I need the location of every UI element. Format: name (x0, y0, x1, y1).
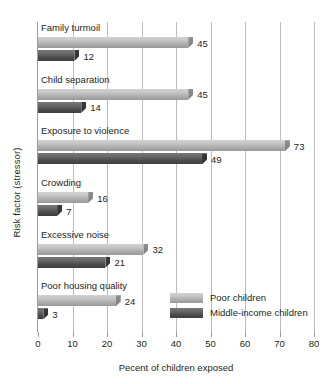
x-axis-tick-label: 70 (274, 338, 285, 349)
x-axis-tick-label: 30 (136, 338, 147, 349)
category-label: Family turmoil (41, 22, 100, 34)
bar-group: Family turmoil4512 (38, 22, 314, 74)
x-axis-tick-label: 80 (309, 338, 320, 349)
bar[interactable] (38, 89, 193, 100)
bar[interactable] (38, 37, 193, 48)
bar-body (38, 308, 43, 319)
x-axis-tick (245, 332, 246, 337)
legend-label: Middle-income children (210, 307, 308, 318)
gridline (314, 22, 315, 332)
bar-tip (74, 50, 79, 61)
plot-area: 01020304050607080Family turmoil4512Child… (38, 22, 314, 332)
bar-value-label: 73 (294, 140, 305, 151)
bar-value-label: 3 (52, 308, 57, 319)
x-axis-tick-label: 50 (205, 338, 216, 349)
x-axis-tick (280, 332, 281, 337)
bar-chart: Risk factor (stressor) 01020304050607080… (0, 0, 336, 384)
bar[interactable] (38, 140, 290, 151)
bar[interactable] (38, 308, 48, 319)
bar-tip (188, 89, 193, 100)
bar-body (38, 295, 116, 306)
x-axis-tick-label: 40 (171, 338, 182, 349)
category-label: Exposure to violence (41, 125, 129, 137)
bar-tip (88, 192, 93, 203)
x-axis-tick (211, 332, 212, 337)
x-axis-tick (142, 332, 143, 337)
category-label: Excessive noise (41, 229, 109, 241)
bar-body (38, 89, 188, 100)
legend-item[interactable]: Middle-income children (170, 306, 308, 319)
bar[interactable] (38, 153, 207, 164)
bar-value-label: 12 (83, 50, 94, 61)
bar-value-label: 7 (66, 205, 71, 216)
bar-body (38, 192, 88, 203)
bar[interactable] (38, 102, 86, 113)
bar-value-label: 32 (152, 244, 163, 255)
bar-body (38, 153, 202, 164)
legend-label: Poor children (210, 292, 266, 303)
bar-group: Excessive noise3221 (38, 229, 314, 281)
bar-value-label: 21 (114, 257, 125, 268)
bar-body (38, 205, 57, 216)
legend: Poor childrenMiddle-income children (170, 291, 308, 321)
y-axis-title: Risk factor (stressor) (6, 0, 28, 384)
bar-tip (105, 257, 110, 268)
x-axis-title: Pecent of children exposed (38, 362, 314, 373)
bar[interactable] (38, 244, 148, 255)
x-axis-tick (73, 332, 74, 337)
x-axis-tick (107, 332, 108, 337)
bar-value-label: 14 (90, 102, 101, 113)
bar-group: Child separation4514 (38, 74, 314, 126)
x-axis-tick-label: 20 (102, 338, 113, 349)
category-label: Poor housing quality (41, 280, 127, 292)
category-label: Crowding (41, 177, 81, 189)
bar-group: Crowding167 (38, 177, 314, 229)
bar[interactable] (38, 192, 93, 203)
y-axis-title-text: Risk factor (stressor) (12, 147, 23, 237)
bar-body (38, 50, 74, 61)
bar[interactable] (38, 205, 62, 216)
bar-tip (285, 140, 290, 151)
x-axis-tick-label: 0 (35, 338, 40, 349)
bar-body (38, 102, 81, 113)
bar-value-label: 45 (197, 37, 208, 48)
legend-swatch (170, 293, 203, 303)
bar[interactable] (38, 257, 110, 268)
bar-tip (202, 153, 207, 164)
legend-item[interactable]: Poor children (170, 291, 308, 304)
bar-tip (188, 37, 193, 48)
bar-tip (116, 295, 121, 306)
x-axis-tick (176, 332, 177, 337)
bar-body (38, 37, 188, 48)
bar-group: Exposure to violence7349 (38, 125, 314, 177)
bar-body (38, 257, 105, 268)
bar-tip (43, 308, 48, 319)
bar-value-label: 24 (125, 295, 136, 306)
x-axis-tick-label: 60 (240, 338, 251, 349)
x-axis-tick (38, 332, 39, 337)
bar-value-label: 49 (211, 153, 222, 164)
x-axis-tick-label: 10 (67, 338, 78, 349)
bar-tip (57, 205, 62, 216)
bar-value-label: 45 (197, 89, 208, 100)
bar[interactable] (38, 295, 121, 306)
bar-tip (143, 244, 148, 255)
legend-swatch (170, 308, 203, 318)
bar[interactable] (38, 50, 79, 61)
bar-body (38, 140, 285, 151)
bar-body (38, 244, 143, 255)
bar-value-label: 16 (97, 192, 108, 203)
bar-tip (81, 102, 86, 113)
x-axis-tick (314, 332, 315, 337)
category-label: Child separation (41, 74, 110, 86)
